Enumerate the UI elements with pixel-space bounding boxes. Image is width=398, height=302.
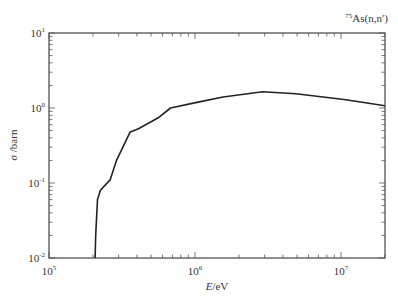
- data-series-line: [95, 92, 385, 258]
- cross-section-chart: 10510610710110010-110-2 75As(n,n′) E/eV …: [0, 0, 398, 302]
- tick-labels: 10510610710110010-110-2: [28, 26, 349, 277]
- y-axis-label: σ /barn: [7, 129, 19, 160]
- chart-title: 75As(n,n′): [345, 12, 388, 25]
- y-tick-label-0: 101: [31, 26, 46, 39]
- plot-frame: [49, 33, 385, 258]
- y-tick-label-1: 100: [31, 101, 46, 114]
- x-tick-label-2: 107: [334, 264, 349, 277]
- y-tick-label-3: 10-2: [28, 251, 45, 264]
- x-axis-label: E/eV: [205, 280, 229, 292]
- x-tick-label-0: 105: [42, 264, 57, 277]
- x-tick-label-1: 106: [188, 264, 203, 277]
- axis-ticks: [49, 33, 385, 258]
- y-tick-label-2: 10-1: [28, 176, 45, 189]
